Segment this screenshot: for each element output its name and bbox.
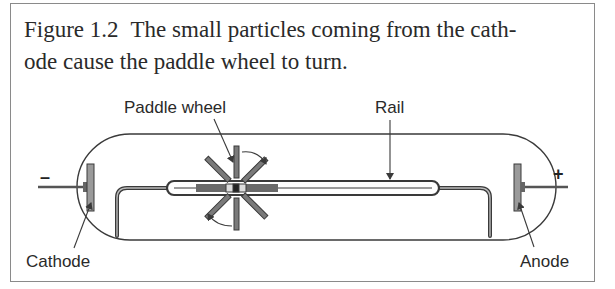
paddle-wheel-label: Paddle wheel bbox=[124, 98, 226, 117]
positive-sign: + bbox=[553, 164, 564, 184]
rail-label: Rail bbox=[375, 98, 404, 117]
anode-pointer bbox=[519, 203, 534, 247]
cathode-label: Cathode bbox=[26, 252, 90, 271]
negative-sign: – bbox=[40, 167, 50, 187]
anode-label: Anode bbox=[520, 252, 569, 271]
crookes-tube-diagram: – + Paddl bbox=[0, 0, 615, 289]
paddle-wheel-pointer bbox=[214, 119, 233, 162]
rail bbox=[167, 181, 439, 195]
